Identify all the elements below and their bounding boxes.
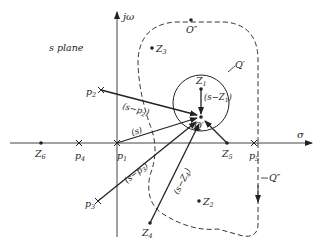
zero-z5-label: Z5 [221,148,233,161]
sigma-axis-label: σ [297,129,305,140]
zero-z3-label: Z3 [155,43,167,56]
zero-z4-marker [148,221,152,225]
pole-p1-label: p1 [117,150,127,163]
pole-p4-label: p4 [75,150,85,163]
vector-s-minus-p2-label: (s−p2) [121,101,150,118]
s-plane-title: s plane [49,42,84,53]
q-prime-contour-label: Q′ [235,59,246,70]
vector-from-z5 [205,121,227,143]
zero-z6-marker [39,141,43,145]
q-prime-point-label: Q′ [194,120,205,131]
s-plane-diagram: jω σ s plane (s) (s−p2) (s−p3) (s−Z4) (s… [0,0,321,245]
jw-axis-label: jω [121,11,134,22]
vector-s-minus-p3-label: (s−p3) [122,160,150,186]
zero-z6-label: Z6 [34,148,46,161]
zero-z1-label: Z1 [195,75,207,88]
vector-s-minus-z4-label: (s−Z4) [171,166,193,196]
zero-z2-label: Z2 [202,196,214,209]
q-prime-pointer [228,66,235,72]
vector-s-minus-z1-label: (s−Z1) [204,92,232,103]
q-double-prime-label: Q″ [269,172,281,183]
zero-z4-label: Z4 [141,227,153,240]
point-o-double-prime [189,18,193,22]
pole-p3-label: p3 [85,198,95,211]
o-double-prime-label: O″ [186,24,198,35]
zero-z3-marker [150,46,154,50]
zero-z5-marker [225,141,229,145]
pole-p3-marker [95,198,101,204]
point-q-prime [199,115,203,119]
zero-z2-marker [197,199,201,203]
pole-p2-label: p2 [86,86,96,99]
